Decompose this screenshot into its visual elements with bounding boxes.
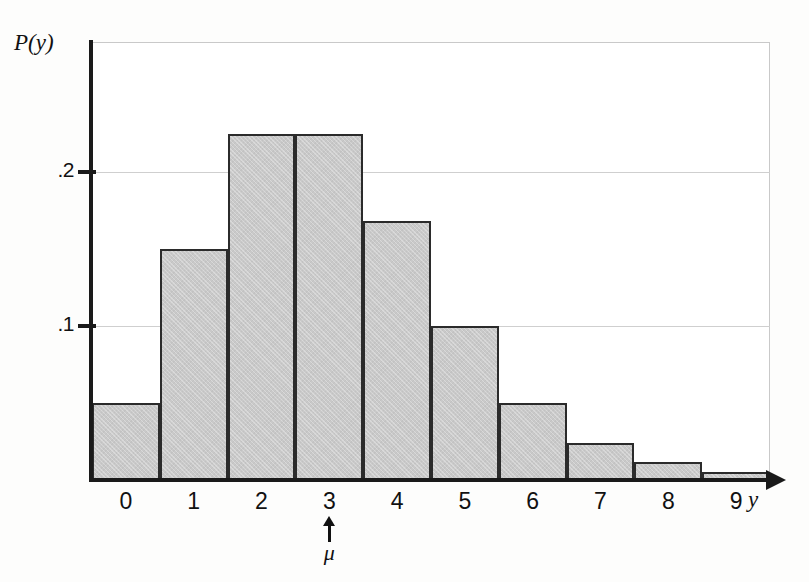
mu-symbol-label: μ (295, 542, 363, 564)
histogram-bar (363, 221, 431, 480)
y-axis-line (89, 40, 93, 482)
x-tick-label: 0 (92, 488, 160, 515)
y-tick-label: .1 (0, 312, 74, 336)
histogram-bar (431, 326, 499, 480)
x-tick-label: 3 (295, 488, 363, 515)
x-tick-label: 6 (499, 488, 567, 515)
arrow-shaft (328, 524, 331, 542)
y-tick-label: .2 (0, 158, 74, 182)
up-arrow-icon (295, 516, 363, 542)
x-tick-label: 1 (160, 488, 228, 515)
x-axis-line (89, 478, 769, 482)
histogram-bar (228, 134, 296, 480)
histogram-bar (499, 403, 567, 480)
x-axis-arrow-icon (766, 470, 786, 490)
histogram-bar (160, 249, 228, 480)
y-tick-mark (78, 324, 96, 328)
probability-histogram-figure: .2.1 0123456789 P(y) y μ (0, 0, 809, 582)
x-tick-label: 8 (634, 488, 702, 515)
y-tick-mark (78, 170, 96, 174)
mu-annotation: μ (295, 516, 363, 564)
x-tick-label: 4 (363, 488, 431, 515)
y-axis-title: P(y) (14, 30, 54, 56)
histogram-bar (92, 403, 160, 480)
x-axis-title: y (748, 487, 758, 513)
x-tick-label: 5 (431, 488, 499, 515)
x-tick-label: 9 (702, 488, 770, 515)
histogram-bar (295, 134, 363, 480)
histogram-bar (567, 443, 635, 480)
x-tick-label: 7 (567, 488, 635, 515)
x-tick-label: 2 (228, 488, 296, 515)
